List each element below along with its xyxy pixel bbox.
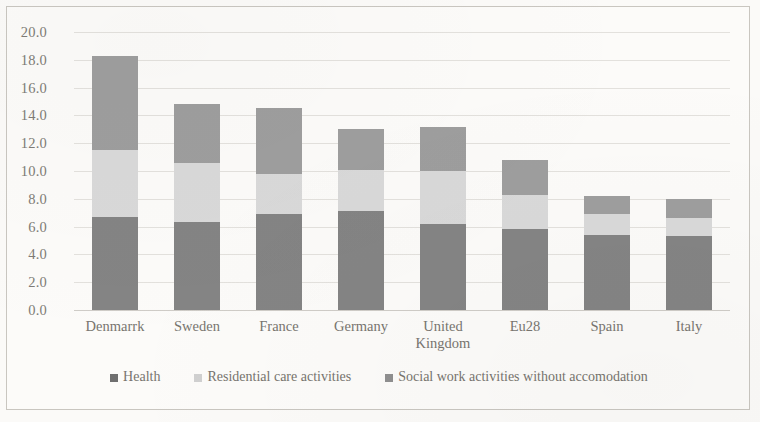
y-axis-tick-label: 10.0 <box>1 163 47 180</box>
gridline <box>74 310 730 311</box>
bar-segment[interactable] <box>420 224 466 310</box>
bar-segment[interactable] <box>666 199 712 218</box>
legend-label: Health <box>123 369 160 385</box>
bar-group[interactable] <box>502 160 548 310</box>
legend-item-social-work-activities[interactable]: Social work activities without accomodat… <box>385 369 648 385</box>
y-axis-tick-label: 6.0 <box>1 218 47 235</box>
bar-segment[interactable] <box>92 56 138 151</box>
y-axis-tick-label: 16.0 <box>1 79 47 96</box>
gridline <box>74 199 730 200</box>
bar-segment[interactable] <box>502 160 548 195</box>
chart-legend: Health Residential care activities Socia… <box>7 369 751 385</box>
bar-group[interactable] <box>256 108 302 310</box>
legend-swatch-icon <box>110 374 118 382</box>
bar-group[interactable] <box>92 56 138 310</box>
bar-segment[interactable] <box>92 217 138 310</box>
y-axis-tick-label: 18.0 <box>1 51 47 68</box>
gridline <box>74 115 730 116</box>
bar-segment[interactable] <box>666 218 712 236</box>
bar-segment[interactable] <box>174 163 220 223</box>
gridline <box>74 60 730 61</box>
legend-swatch-icon <box>194 374 202 382</box>
bar-segment[interactable] <box>502 229 548 310</box>
x-axis-tick-label: Italy <box>630 318 748 335</box>
gridline <box>74 254 730 255</box>
legend-item-health[interactable]: Health <box>110 369 160 385</box>
bar-segment[interactable] <box>338 170 384 212</box>
bar-segment[interactable] <box>420 127 466 171</box>
y-axis-tick-label: 14.0 <box>1 107 47 124</box>
legend-label: Residential care activities <box>207 369 351 385</box>
gridline <box>74 282 730 283</box>
bar-segment[interactable] <box>666 236 712 310</box>
bar-group[interactable] <box>584 196 630 310</box>
gridline <box>74 32 730 33</box>
bar-segment[interactable] <box>584 196 630 214</box>
bar-segment[interactable] <box>584 235 630 310</box>
y-axis-tick-label: 2.0 <box>1 274 47 291</box>
legend-swatch-icon <box>385 374 393 382</box>
bar-segment[interactable] <box>256 214 302 310</box>
y-axis-tick-label: 4.0 <box>1 246 47 263</box>
gridline <box>74 88 730 89</box>
bar-segment[interactable] <box>256 108 302 173</box>
bar-group[interactable] <box>338 129 384 310</box>
bar-segment[interactable] <box>420 171 466 224</box>
chart-screenshot: 20.0 18.0 16.0 14.0 12.0 10.0 8.0 6.0 4.… <box>0 0 760 422</box>
y-axis-tick-label: 12.0 <box>1 135 47 152</box>
bar-segment[interactable] <box>256 174 302 214</box>
gridline <box>74 171 730 172</box>
gridline <box>74 227 730 228</box>
gridline <box>74 143 730 144</box>
bar-segment[interactable] <box>174 222 220 310</box>
chart-frame: 20.0 18.0 16.0 14.0 12.0 10.0 8.0 6.0 4.… <box>6 6 750 410</box>
bar-segment[interactable] <box>502 195 548 230</box>
x-axis-tick-label-line: Kingdom <box>384 335 502 352</box>
x-axis-tick-label-line: Italy <box>630 318 748 335</box>
bar-segment[interactable] <box>584 214 630 235</box>
bar-group[interactable] <box>174 104 220 310</box>
bar-segment[interactable] <box>338 211 384 310</box>
bar-group[interactable] <box>420 127 466 310</box>
legend-label: Social work activities without accomodat… <box>398 369 648 385</box>
bar-segment[interactable] <box>174 104 220 162</box>
y-axis-tick-label: 8.0 <box>1 190 47 207</box>
plot-area <box>74 32 730 310</box>
bar-group[interactable] <box>666 199 712 310</box>
y-axis-tick-label: 20.0 <box>1 24 47 41</box>
y-axis-tick-label: 0.0 <box>1 302 47 319</box>
bar-segment[interactable] <box>92 150 138 217</box>
bar-segment[interactable] <box>338 129 384 169</box>
legend-item-residential-care-activities[interactable]: Residential care activities <box>194 369 351 385</box>
